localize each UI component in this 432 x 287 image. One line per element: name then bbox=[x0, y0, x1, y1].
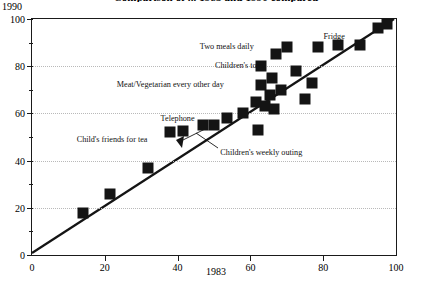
x-axis-tick bbox=[323, 255, 324, 261]
chart-title: Comparison of ... 1983 and 1990 compared bbox=[0, 0, 432, 2]
chart-annotation: Meat/Vegetarian every other day bbox=[117, 79, 224, 88]
data-point-marker bbox=[238, 108, 249, 119]
data-point-marker bbox=[381, 18, 392, 29]
y-axis-tick bbox=[27, 66, 33, 67]
data-point-marker bbox=[307, 77, 318, 88]
x-axis-tick-label: 80 bbox=[318, 262, 328, 273]
chart-annotation: Telephone bbox=[161, 114, 195, 123]
gridline bbox=[32, 161, 396, 162]
data-point-marker bbox=[198, 120, 209, 131]
y-axis-tick-label: 80 bbox=[15, 61, 25, 72]
x-axis-tick-label: 0 bbox=[30, 262, 35, 273]
data-point-marker bbox=[269, 103, 280, 114]
chart-annotation: Children's toys bbox=[215, 61, 264, 70]
x-axis-label: 1983 bbox=[0, 266, 432, 277]
y-axis-tick bbox=[27, 208, 33, 209]
data-point-marker bbox=[312, 42, 323, 53]
y-axis-minor-tick bbox=[29, 137, 33, 138]
data-point-marker bbox=[265, 89, 276, 100]
chart-annotation: Child's friends for tea bbox=[77, 135, 148, 144]
data-point-marker bbox=[300, 94, 311, 105]
y-axis-minor-tick bbox=[29, 90, 33, 91]
chart-annotation: Two meals daily bbox=[200, 42, 254, 51]
data-point-marker bbox=[105, 188, 116, 199]
y-axis-tick bbox=[27, 255, 33, 256]
x-axis-tick-label: 100 bbox=[389, 262, 404, 273]
data-point-marker bbox=[165, 127, 176, 138]
plot-area: 020406080100020406080100Two meals dailyF… bbox=[31, 18, 397, 256]
y-axis-tick-label: 60 bbox=[15, 108, 25, 119]
data-point-marker bbox=[267, 73, 278, 84]
x-axis-tick-label: 20 bbox=[100, 262, 110, 273]
y-axis-tick-label: 20 bbox=[15, 202, 25, 213]
x-axis-tick bbox=[250, 255, 251, 261]
chart-page: Comparison of ... 1983 and 1990 compared… bbox=[0, 0, 432, 287]
y-axis-minor-tick bbox=[29, 184, 33, 185]
gridline bbox=[32, 113, 396, 114]
x-axis-tick bbox=[178, 255, 179, 261]
y-axis-tick-label: 100 bbox=[10, 14, 25, 25]
data-point-marker bbox=[221, 113, 232, 124]
y-axis-tick bbox=[27, 113, 33, 114]
y-axis-label: 1990 bbox=[2, 1, 22, 12]
x-axis-tick bbox=[105, 255, 106, 261]
data-point-marker bbox=[209, 120, 220, 131]
y-axis-tick-label: 0 bbox=[20, 250, 25, 261]
data-point-marker bbox=[270, 49, 281, 60]
data-point-marker bbox=[143, 162, 154, 173]
y-axis-tick-label: 40 bbox=[15, 155, 25, 166]
chart-annotation: Children's weekly outing bbox=[220, 148, 302, 157]
data-point-marker bbox=[252, 124, 263, 135]
y-axis-minor-tick bbox=[29, 43, 33, 44]
data-point-marker bbox=[290, 65, 301, 76]
data-point-marker bbox=[77, 207, 88, 218]
y-axis-tick bbox=[27, 161, 33, 162]
y-axis-minor-tick bbox=[29, 231, 33, 232]
data-point-marker bbox=[332, 39, 343, 50]
data-point-marker bbox=[276, 84, 287, 95]
data-point-marker bbox=[354, 39, 365, 50]
chart-annotation: Fridge bbox=[323, 31, 344, 40]
data-point-marker bbox=[281, 42, 292, 53]
x-axis-tick-label: 60 bbox=[245, 262, 255, 273]
y-axis-tick bbox=[27, 19, 33, 20]
x-axis-tick-label: 40 bbox=[173, 262, 183, 273]
data-point-marker bbox=[178, 126, 189, 137]
